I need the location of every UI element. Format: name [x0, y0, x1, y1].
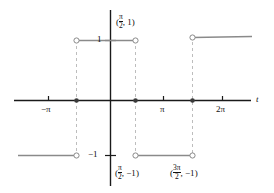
function-graph-figure: −π π 2π 1 −1 t (π2, 1) (π2, −1) (3π2, −1…	[0, 0, 274, 193]
open-endpoints	[74, 35, 195, 158]
open-circle-low-center-end	[190, 153, 195, 158]
x-axis-variable-label: t	[256, 95, 259, 104]
annotation-bl-paren-close: )	[136, 168, 139, 178]
open-circle-high-center-start	[74, 38, 79, 43]
annotation-br-comma: ,	[181, 168, 183, 178]
axis-dot-three-half-pi	[190, 98, 195, 103]
x-tick-label-2pi: 2π	[216, 105, 225, 114]
annotation-br-value: −1	[185, 168, 195, 178]
annotation-top-paren-close: )	[132, 17, 135, 27]
open-circle-low-center-start	[133, 153, 138, 158]
y-tick-label-one: 1	[97, 35, 102, 44]
axis-dot-half-pi	[133, 98, 138, 103]
annotation-top-point: (π2, 1)	[116, 13, 135, 30]
x-tick-label-pi: π	[160, 105, 165, 114]
annotation-bl-value: −1	[126, 168, 136, 178]
annotation-bl-comma: ,	[122, 168, 124, 178]
x-tick-label-neg-pi: −π	[41, 105, 51, 114]
open-circle-high-center-end	[133, 38, 138, 43]
annotation-br-fraction: 3π2	[173, 164, 181, 181]
annotation-bottom-right-point: (3π2, −1)	[170, 164, 198, 181]
segment-high-right	[193, 37, 253, 38]
jump-dashed-lines	[77, 36, 193, 156]
open-circle-low-left-end	[74, 153, 79, 158]
open-circle-high-right-start	[190, 35, 195, 40]
annotation-bottom-left-point: (π2, −1)	[115, 164, 139, 181]
annotation-br-denominator: 2	[173, 172, 181, 181]
y-tick-label-neg-one: −1	[88, 150, 98, 159]
annotation-br-paren-close: )	[195, 168, 198, 178]
annotation-br-numerator: 3π	[173, 164, 181, 172]
annotation-top-comma: ,	[123, 17, 125, 27]
axis-dot-neg-half-pi	[74, 98, 79, 103]
